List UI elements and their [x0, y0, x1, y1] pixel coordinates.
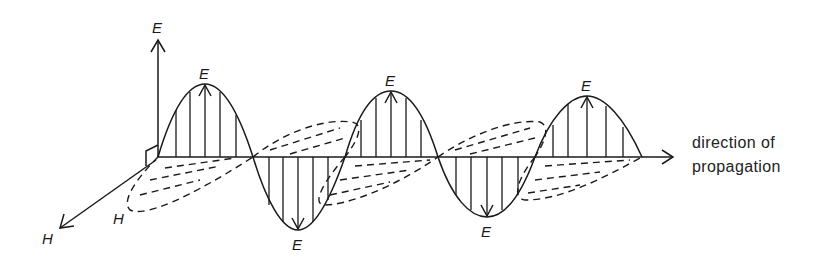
caption-line-1: direction of — [692, 131, 781, 155]
e-axis-label: E — [152, 19, 163, 36]
e-trough-1-label: E — [292, 236, 303, 253]
caption-line-2: propagation — [692, 155, 781, 179]
e-peak-3-label: E — [581, 77, 592, 94]
h-axis-label: H — [42, 230, 53, 247]
propagation-caption: direction of propagation — [692, 131, 781, 179]
h-lobe-label: H — [113, 210, 124, 227]
e-peak-2-label: E — [385, 72, 396, 89]
e-peak-1-label: E — [199, 65, 210, 82]
e-trough-2-label: E — [481, 223, 492, 240]
